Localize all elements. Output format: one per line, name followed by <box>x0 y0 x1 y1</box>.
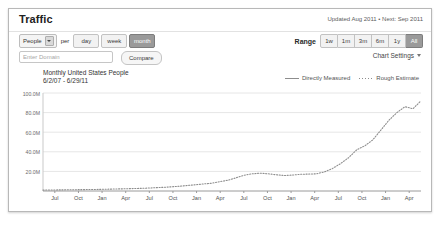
metric-select-value: People <box>23 38 42 44</box>
legend-line-dotted-icon <box>359 78 373 79</box>
chart-legend: Directly Measured Rough Estimate <box>285 75 419 81</box>
svg-text:Jul: Jul <box>146 195 153 201</box>
domain-input[interactable]: Enter Domain <box>19 51 113 63</box>
widget-header: Traffic Updated Aug 2011 • Next: Sep 201… <box>9 9 431 32</box>
chart-settings-label: Chart Settings <box>373 52 414 59</box>
svg-text:40.0M: 40.0M <box>26 149 40 155</box>
controls-row-secondary: Enter Domain Compare Chart Settings <box>9 49 431 68</box>
interval-button-group: day week month <box>73 34 155 48</box>
svg-text:Apr: Apr <box>405 195 414 201</box>
svg-text:Oct: Oct <box>263 195 272 201</box>
svg-text:Jul: Jul <box>240 195 247 201</box>
page-title: Traffic <box>19 13 53 25</box>
legend-line-solid-icon <box>285 78 299 79</box>
chart-container: Monthly United States People 6/2/07 - 6/… <box>17 69 423 209</box>
chart-subtitle: 6/2/07 - 6/29/11 <box>43 77 88 85</box>
legend-item-directly-measured: Directly Measured <box>285 75 350 81</box>
interval-button-day[interactable]: day <box>73 34 99 48</box>
controls-row-primary: People per day week month Range 1w 1m 3m… <box>9 32 431 49</box>
legend-label: Directly Measured <box>302 75 350 81</box>
interval-button-month[interactable]: month <box>129 34 155 48</box>
svg-text:Apr: Apr <box>121 195 130 201</box>
svg-text:Jan: Jan <box>381 195 390 201</box>
svg-text:20.0M: 20.0M <box>26 169 40 175</box>
range-button-1m[interactable]: 1m <box>338 34 355 48</box>
range-label: Range <box>295 38 316 45</box>
svg-text:Oct: Oct <box>169 195 178 201</box>
traffic-widget: Traffic Updated Aug 2011 • Next: Sep 201… <box>8 8 432 212</box>
svg-text:Jan: Jan <box>287 195 296 201</box>
svg-text:Apr: Apr <box>216 195 225 201</box>
compare-button[interactable]: Compare <box>121 51 162 65</box>
per-label: per <box>61 38 70 44</box>
interval-button-week[interactable]: week <box>101 34 127 48</box>
svg-text:Jan: Jan <box>98 195 107 201</box>
chevron-down-icon <box>417 54 421 57</box>
chart-title: Monthly United States People <box>43 69 129 77</box>
range-button-6m[interactable]: 6m <box>372 34 389 48</box>
range-button-group: 1w 1m 3m 6m 1y All <box>320 34 423 48</box>
svg-text:Jul: Jul <box>51 195 58 201</box>
range-button-all[interactable]: All <box>406 34 423 48</box>
svg-text:Oct: Oct <box>74 195 83 201</box>
range-button-1y[interactable]: 1y <box>389 34 406 48</box>
updated-status: Updated Aug 2011 • Next: Sep 2011 <box>327 16 423 22</box>
chart-plot-area: 100.0M80.0M60.0M40.0M20.0MJulOctJanAprJu… <box>17 89 423 207</box>
legend-label: Rough Estimate <box>376 75 419 81</box>
svg-text:100.0M: 100.0M <box>23 91 40 97</box>
svg-text:Jul: Jul <box>335 195 342 201</box>
chevron-down-icon[interactable] <box>45 36 54 46</box>
range-button-3m[interactable]: 3m <box>355 34 372 48</box>
chart-settings-menu[interactable]: Chart Settings <box>373 52 421 59</box>
svg-text:60.0M: 60.0M <box>26 130 40 136</box>
svg-text:Jan: Jan <box>192 195 201 201</box>
traffic-line-chart: 100.0M80.0M60.0M40.0M20.0MJulOctJanAprJu… <box>17 89 425 207</box>
range-button-1w[interactable]: 1w <box>320 34 338 48</box>
svg-text:Oct: Oct <box>358 195 367 201</box>
legend-item-rough-estimate: Rough Estimate <box>359 75 419 81</box>
metric-controls: People per day week month <box>19 34 155 48</box>
metric-select[interactable]: People <box>19 34 57 48</box>
svg-text:Apr: Apr <box>310 195 319 201</box>
svg-text:80.0M: 80.0M <box>26 110 40 116</box>
range-controls: Range 1w 1m 3m 6m 1y All <box>295 34 423 48</box>
